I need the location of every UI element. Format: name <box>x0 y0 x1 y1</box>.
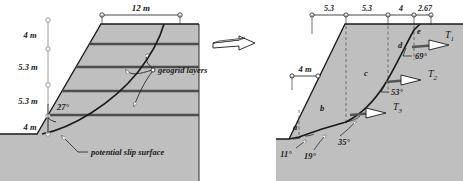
top-dim-label-4: 2.67 <box>417 4 433 13</box>
T3-sub: 3 <box>398 107 403 115</box>
slope-angle-label: 27° <box>56 102 70 112</box>
crest-dimension-label: 12 m <box>132 3 150 13</box>
T2-sub: 2 <box>434 74 438 82</box>
vert-dim-label-1: 4 m <box>23 30 37 40</box>
angle-label-35: 35° <box>337 137 351 147</box>
arrow-body <box>213 36 255 50</box>
geogrid-callout-node <box>151 68 155 72</box>
left-diagram: 12 m 4 m 5.3 m 5.3 m 4 m 27° ge <box>0 3 208 181</box>
right-diagram: 5.3 5.3 4 2.67 4 m a b c d e <box>276 4 463 181</box>
wedge-label-e: e <box>417 26 421 36</box>
angle-label-19: 19° <box>304 151 317 161</box>
wedge-label-c: c <box>364 68 368 78</box>
height-dimension-label: 4 m <box>298 64 312 74</box>
diagram-svg: 12 m 4 m 5.3 m 5.3 m 4 m 27° ge <box>0 0 463 181</box>
vert-tick-1 <box>46 47 50 51</box>
block-arrow-right-icon <box>213 36 255 50</box>
top-dim-label-3: 4 <box>398 4 403 13</box>
height-tick-right <box>316 74 320 78</box>
vert-dim-label-3: 5.3 m <box>18 96 38 106</box>
vert-tick-0 <box>46 18 50 22</box>
slip-surface-label: potential slip surface <box>90 147 164 157</box>
angle-label-53: 53° <box>391 87 404 97</box>
angle-label-11: 11° <box>280 149 292 159</box>
vert-dim-label-4: 4 m <box>23 122 37 132</box>
T1-sub: 1 <box>451 35 455 43</box>
vert-dim-label-2: 5.3 m <box>18 62 38 72</box>
geogrid-layers-label: geogrid layers <box>157 65 208 75</box>
vert-tick-2 <box>46 83 50 87</box>
top-dim-label-1: 5.3 <box>324 4 334 13</box>
wedge-label-b: b <box>320 103 324 113</box>
crest-dimension: 12 m <box>100 3 182 24</box>
top-dim-label-2: 5.3 <box>362 4 372 13</box>
figure-canvas: 12 m 4 m 5.3 m 5.3 m 4 m 27° ge <box>0 0 463 181</box>
angle-label-69: 69° <box>415 51 428 61</box>
